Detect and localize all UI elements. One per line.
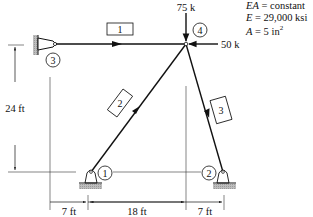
dimension-span-left: 7 ft <box>62 206 76 217</box>
dimension-span-right: 7 ft <box>198 206 212 217</box>
member-1-arrow-icon <box>112 41 122 47</box>
member-2-arrow-icon <box>132 106 140 114</box>
svg-text:3: 3 <box>219 105 224 116</box>
dimension-height: 24 ft <box>5 47 25 170</box>
member-2-label: 2 <box>107 89 132 117</box>
pin-support-joint-3 <box>33 35 57 55</box>
svg-text:24 ft: 24 ft <box>5 103 25 114</box>
svg-text:50 k: 50 k <box>221 39 240 50</box>
horizontal-load: 50 k <box>189 39 240 50</box>
svg-text:75 k: 75 k <box>177 2 196 13</box>
member-1-label: 1 <box>107 23 133 35</box>
svg-text:4: 4 <box>198 25 203 36</box>
member-3-label: 3 <box>210 96 232 123</box>
svg-text:3: 3 <box>51 55 56 66</box>
joint-1-label: 1 <box>98 166 112 180</box>
svg-text:2: 2 <box>207 168 212 179</box>
joint-2-label: 2 <box>202 166 216 180</box>
pin-support-joint-2 <box>213 170 236 189</box>
svg-text:1: 1 <box>103 168 108 179</box>
vertical-load: 75 k <box>177 2 196 41</box>
property-e: E = 29,000 ksi <box>246 12 307 24</box>
joint-4-label: 4 <box>193 23 207 37</box>
material-properties: EA = constant E = 29,000 ksi A = 5 in2 <box>246 0 307 37</box>
property-ea: EA = constant <box>246 0 307 12</box>
joint-3-label: 3 <box>46 53 60 67</box>
svg-text:1: 1 <box>118 24 123 35</box>
dimension-span-mid: 18 ft <box>127 206 147 217</box>
svg-text:2: 2 <box>118 98 123 109</box>
joint-4-node <box>184 42 188 46</box>
property-a: A = 5 in2 <box>246 23 307 37</box>
extension-lines <box>8 45 224 210</box>
